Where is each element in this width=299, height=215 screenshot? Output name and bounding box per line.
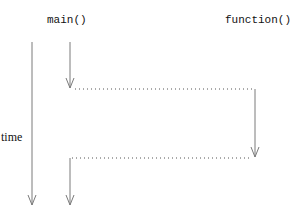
diagram-canvas — [0, 0, 299, 215]
main-execution-arrow-after — [66, 158, 74, 205]
function-execution-arrow — [251, 89, 259, 157]
main-execution-arrow-before — [66, 42, 74, 88]
time-axis-arrow — [28, 42, 36, 205]
